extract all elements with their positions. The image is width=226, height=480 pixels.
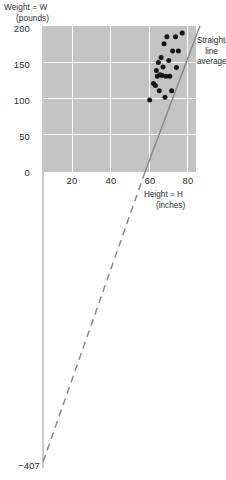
chart-figure: Weight = W (pounds) 200 150 100 50 0 20 …: [0, 0, 226, 480]
x-tick-40: 40: [96, 175, 126, 186]
gridline-y-50: [42, 134, 196, 135]
x-tick-60: 60: [135, 175, 165, 186]
y-tick-150: 150: [0, 59, 30, 70]
y-tick-100: 100: [0, 95, 30, 106]
y-axis-title-line1: Weight = W: [4, 3, 47, 12]
gridline-x-60: [149, 26, 150, 172]
y-tick-200: 200: [0, 23, 30, 34]
y-tick-50: 50: [0, 131, 30, 142]
gridline-y-150: [42, 62, 196, 63]
y-axis-title: Weight = W (pounds): [4, 2, 49, 24]
gridline-x-80: [187, 26, 188, 172]
x-tick-80: 80: [173, 175, 203, 186]
annotation-line2: line: [205, 47, 218, 56]
x-axis-title-line2: (inches): [144, 201, 185, 212]
annotation-line1: Straight-: [197, 36, 226, 45]
y-axis-line: [42, 26, 44, 468]
x-axis-title-line1: Height = H: [144, 190, 183, 199]
gridline-x-20: [72, 26, 73, 172]
plot-area: [42, 26, 196, 172]
annotation-line3: average: [197, 57, 226, 66]
gridline-y-100: [42, 98, 196, 99]
fit-line-dashed: [42, 172, 145, 465]
y-intercept-label: −407: [2, 460, 40, 471]
gridline-x-40: [110, 26, 111, 172]
y-tick-0: 0: [0, 167, 30, 178]
x-tick-20: 20: [57, 175, 87, 186]
x-axis-title: Height = H (inches): [144, 190, 185, 211]
fit-line-annotation: Straight- line average: [197, 36, 226, 68]
